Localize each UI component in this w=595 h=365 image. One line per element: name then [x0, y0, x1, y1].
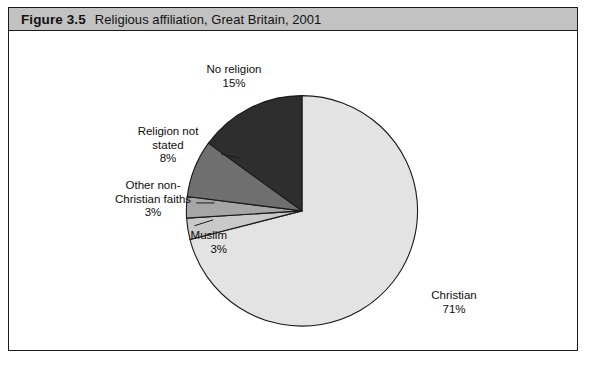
- pie-label-no-religion: No religion 15%: [169, 63, 299, 90]
- pie-label-no-religion-line1: No religion: [169, 63, 299, 77]
- pie-label-other-faiths-line1: Other non-: [79, 179, 227, 193]
- pie-label-muslim-value: 3%: [97, 243, 227, 257]
- figure-number: Figure 3.5: [21, 12, 86, 27]
- pie-label-other-faiths-line2: Christian faiths: [79, 193, 227, 207]
- pie-label-religion-not-stated-line1: Religion not: [109, 125, 227, 139]
- pie-label-christian: Christian 71%: [399, 289, 509, 316]
- pie-label-other-faiths: Other non- Christian faiths 3%: [79, 179, 227, 220]
- pie-label-other-faiths-value: 3%: [79, 206, 227, 220]
- pie-label-muslim: Muslim 3%: [97, 229, 227, 256]
- pie-label-religion-not-stated-value: 8%: [109, 152, 227, 166]
- pie-label-muslim-line1: Muslim: [97, 229, 227, 243]
- figure-frame: Figure 3.5 Religious affiliation, Great …: [8, 7, 578, 351]
- pie-label-christian-line1: Christian: [399, 289, 509, 303]
- pie-label-christian-value: 71%: [399, 303, 509, 317]
- figure-header: Figure 3.5 Religious affiliation, Great …: [9, 8, 577, 31]
- pie-label-no-religion-value: 15%: [169, 77, 299, 91]
- figure-title: Religious affiliation, Great Britain, 20…: [95, 12, 322, 27]
- chart-plot-area: No religion 15% Religion not stated 8% O…: [9, 31, 577, 350]
- pie-label-religion-not-stated-line2: stated: [109, 139, 227, 153]
- pie-label-religion-not-stated: Religion not stated 8%: [109, 125, 227, 166]
